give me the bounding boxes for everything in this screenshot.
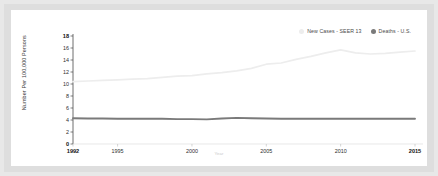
- y-tick-label: 14: [63, 57, 69, 63]
- y-tick-label: 8: [66, 93, 69, 99]
- y-tick-label: 2: [66, 129, 69, 135]
- y-tick-label: 18: [63, 33, 69, 39]
- x-axis-title: Year: [11, 151, 427, 156]
- series-line-new-cases: [73, 50, 415, 82]
- y-tick-label: 12: [63, 69, 69, 75]
- legend-label-deaths: Deaths - U.S.: [379, 29, 411, 34]
- legend-swatch-circle-icon: [371, 29, 376, 34]
- legend-swatch-square-icon: [299, 29, 304, 34]
- legend-label-new-cases: New Cases - SEER 13: [307, 29, 361, 34]
- chart-legend: New Cases - SEER 13 Deaths - U.S.: [251, 26, 411, 38]
- chart-card: 024681012141618199219952000200520102015 …: [11, 10, 427, 166]
- legend-item-deaths[interactable]: Deaths - U.S.: [371, 29, 411, 34]
- series-line-deaths: [73, 118, 415, 120]
- y-axis-title: Number Per 100,000 Persons: [22, 26, 27, 120]
- y-tick-label: 16: [63, 45, 69, 51]
- screenshot-root: 024681012141618199219952000200520102015 …: [0, 0, 438, 176]
- y-tick-label: 6: [66, 105, 69, 111]
- y-tick-label: 4: [66, 117, 69, 123]
- legend-item-new-cases[interactable]: New Cases - SEER 13: [299, 29, 361, 34]
- y-tick-label: 0: [66, 141, 69, 147]
- y-tick-label: 10: [63, 81, 69, 87]
